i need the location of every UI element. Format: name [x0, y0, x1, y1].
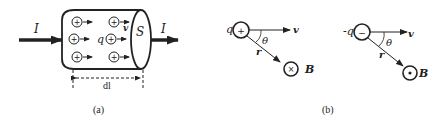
charge-label: q — [97, 33, 104, 46]
caption-b: (b) — [322, 104, 334, 116]
svg-text:+: + — [74, 53, 81, 62]
angle-label-right: θ — [386, 37, 392, 48]
panel-b-left: + q v r θ × B — [226, 22, 314, 76]
svg-text:×: × — [288, 65, 295, 74]
charge-label-q: q — [226, 23, 233, 36]
radius-label-right: r — [379, 49, 385, 60]
field-label-left: B — [304, 63, 314, 76]
velocity-label-right: v — [408, 28, 414, 39]
panel-a: I S I + + + — [19, 10, 178, 116]
field-label-right: B — [418, 67, 428, 80]
charge-item: + — [72, 52, 92, 62]
charge-item: + — [109, 52, 129, 62]
svg-text:+: + — [74, 18, 81, 27]
length-label: dl — [103, 80, 111, 91]
svg-text:+: + — [108, 35, 115, 44]
charge-item: + — [69, 34, 89, 44]
velocity-label-left: v — [293, 24, 299, 35]
charge-label-minus-q: -q — [343, 25, 354, 38]
svg-text:+: + — [71, 35, 78, 44]
angle-arc — [379, 32, 384, 46]
dot-icon — [408, 71, 411, 74]
radius-label-left: r — [256, 46, 262, 57]
svg-text:+: + — [111, 53, 118, 62]
current-out-label: I — [160, 22, 166, 36]
angle-label-left: θ — [262, 35, 268, 46]
charge-item: + — [106, 34, 126, 44]
current-in-label: I — [33, 22, 39, 36]
svg-text:+: + — [237, 26, 245, 36]
cross-section-ellipse — [131, 10, 151, 69]
panel-b-right: − -q v r θ B — [343, 24, 428, 80]
figure-canvas: I S I + + + — [0, 0, 448, 123]
caption-a: (a) — [93, 104, 104, 116]
svg-text:+: + — [111, 18, 118, 27]
angle-arc — [256, 30, 261, 42]
svg-text:−: − — [358, 28, 366, 38]
charge-item: + — [72, 17, 92, 27]
cross-section-label: S — [136, 25, 144, 39]
velocity-label: v — [123, 23, 129, 33]
